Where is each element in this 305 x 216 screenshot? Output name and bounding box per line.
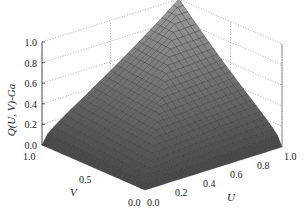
z-tick-0: 0.0 (25, 140, 38, 151)
u-tick-0.0: 0.0 (147, 197, 160, 208)
z-tick-3: 0.6 (25, 78, 38, 89)
surface-plot: 0.0 0.2 0.4 0.6 0.8 1.0 1.0 0.5 0.0 0.0 … (0, 0, 305, 216)
z-tick-2: 0.4 (25, 99, 38, 110)
z-axis-label: Q(U, V)-Ga (5, 83, 18, 136)
z-tick-5: 1.0 (25, 37, 38, 48)
z-tick-4: 0.8 (25, 58, 38, 69)
u-axis-label: U (227, 191, 236, 203)
u-tick-1.0: 1.0 (284, 151, 297, 162)
u-tick-0.8: 0.8 (257, 160, 270, 171)
v-tick-1.0: 1.0 (23, 151, 36, 162)
z-tick-1: 0.2 (25, 119, 38, 130)
v-tick-0.5: 0.5 (79, 174, 92, 185)
v-tick-0.0: 0.0 (128, 197, 141, 208)
u-tick-0.4: 0.4 (203, 178, 216, 189)
u-tick-0.6: 0.6 (230, 169, 243, 180)
u-tick-0.2: 0.2 (175, 187, 188, 198)
v-axis-label: V (70, 186, 78, 198)
